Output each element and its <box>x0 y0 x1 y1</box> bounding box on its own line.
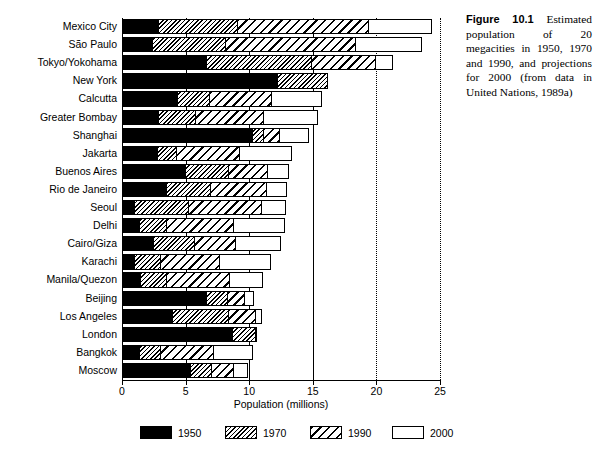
bar-row <box>122 217 440 234</box>
bar-row <box>122 90 440 107</box>
bar-1950 <box>122 110 159 125</box>
bar-1950 <box>122 55 207 70</box>
y-axis-label: Shanghai <box>0 127 117 144</box>
y-axis-label: Calcutta <box>0 90 117 107</box>
bar-row <box>122 290 440 307</box>
figure-root: Mexico CitySão PauloTokyo/YokohamaNew Yo… <box>0 0 602 468</box>
y-axis-label: Bangkok <box>0 344 117 361</box>
legend-item: 1990 <box>310 426 371 439</box>
bar-row <box>122 54 440 71</box>
x-tick-label: 25 <box>434 385 446 397</box>
legend-label: 1970 <box>263 427 286 439</box>
bar-row <box>122 72 440 89</box>
bar-row <box>122 362 440 379</box>
x-tick-label: 10 <box>243 385 255 397</box>
x-tick-label: 20 <box>371 385 383 397</box>
legend-label: 1990 <box>348 427 371 439</box>
x-axis-title: Population (millions) <box>122 398 440 410</box>
y-axis-label: Rio de Janeiro <box>0 181 117 198</box>
y-axis-label: Los Angeles <box>0 308 117 325</box>
legend-label: 2000 <box>430 427 453 439</box>
bar-row <box>122 235 440 252</box>
chart-panel: Mexico CitySão PauloTokyo/YokohamaNew Yo… <box>0 0 452 468</box>
y-axis-label: Delhi <box>0 217 117 234</box>
y-axis-label: Greater Bombay <box>0 109 117 126</box>
legend-item: 1970 <box>225 426 286 439</box>
legend-item: 2000 <box>392 426 453 439</box>
bar-1950 <box>122 182 167 197</box>
x-axis-ticks: 0510152025 <box>122 380 440 394</box>
bar-row <box>122 127 440 144</box>
y-axis-label: Karachi <box>0 253 117 270</box>
y-axis-label: Moscow <box>0 362 117 379</box>
bar-1950 <box>122 218 140 233</box>
bar-row <box>122 308 440 325</box>
bar-1950 <box>122 37 153 52</box>
bar-row <box>122 253 440 270</box>
bar-row <box>122 199 440 216</box>
bar-row <box>122 326 440 343</box>
y-axis-label: Beijing <box>0 290 117 307</box>
figure-caption: Figure 10.1 Estimated population of 20 m… <box>466 12 592 100</box>
bar-1950 <box>122 19 159 34</box>
bar-1950 <box>122 73 278 88</box>
figure-caption-label: Figure <box>466 13 500 25</box>
bar-row <box>122 344 440 361</box>
y-axis-label: London <box>0 326 117 343</box>
plot-area <box>122 18 440 380</box>
bar-row <box>122 145 440 162</box>
bar-1950 <box>122 200 135 215</box>
figure-caption-number: 10.1 <box>512 13 533 25</box>
bar-1950 <box>122 236 154 251</box>
bar-1950 <box>122 128 253 143</box>
x-tick-label: 0 <box>119 385 125 397</box>
y-axis-label: Cairo/Giza <box>0 235 117 252</box>
bar-1950 <box>122 291 207 306</box>
bar-row <box>122 163 440 180</box>
bar-row <box>122 271 440 288</box>
y-axis-label: New York <box>0 72 117 89</box>
bar-row <box>122 109 440 126</box>
figure-caption-text: Estimated population of 20 megacities in… <box>466 13 592 98</box>
bar-1950 <box>122 309 173 324</box>
bar-1950 <box>122 345 140 360</box>
x-tick-label: 15 <box>307 385 319 397</box>
bar-row <box>122 181 440 198</box>
x-tick-label: 5 <box>183 385 189 397</box>
bar-1950 <box>122 164 186 179</box>
y-axis-label: Jakarta <box>0 145 117 162</box>
bar-1950 <box>122 363 191 378</box>
y-axis-label: Tokyo/Yokohama <box>0 54 117 71</box>
bar-rows <box>122 18 440 380</box>
legend-swatch-1950 <box>140 426 172 439</box>
legend-swatch-1990 <box>310 426 342 439</box>
bar-1950 <box>122 254 135 269</box>
y-axis-label: São Paulo <box>0 36 117 53</box>
gridline <box>440 18 441 380</box>
y-axis-label: Buenos Aires <box>0 163 117 180</box>
legend-label: 1950 <box>178 427 201 439</box>
legend-swatch-1970 <box>225 426 257 439</box>
y-axis-label: Mexico City <box>0 18 117 35</box>
bar-1950 <box>122 327 233 342</box>
bar-1950 <box>122 146 158 161</box>
bar-1950 <box>122 91 178 106</box>
y-axis-label: Manila/Quezon <box>0 271 117 288</box>
bar-row <box>122 36 440 53</box>
chart-legend: 1950197019902000 <box>140 426 430 448</box>
y-axis-category-labels: Mexico CitySão PauloTokyo/YokohamaNew Yo… <box>0 18 117 380</box>
y-axis-label: Seoul <box>0 199 117 216</box>
legend-swatch-2000 <box>392 426 424 439</box>
bar-row <box>122 18 440 35</box>
bar-1950 <box>122 272 141 287</box>
legend-item: 1950 <box>140 426 201 439</box>
